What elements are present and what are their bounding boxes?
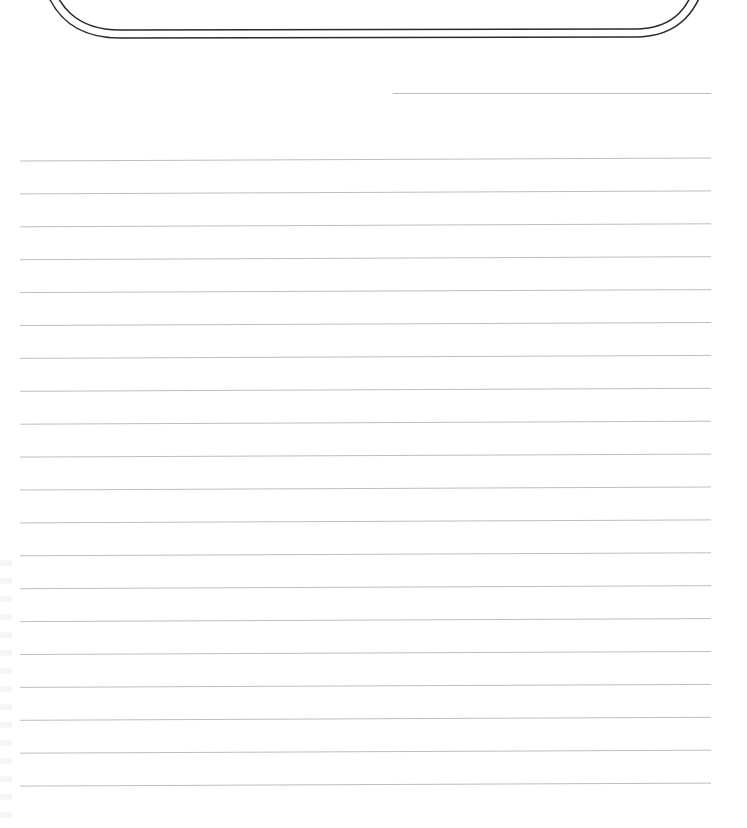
ruled-line — [20, 224, 711, 227]
ruled-line — [20, 355, 711, 358]
ruled-line — [20, 553, 711, 556]
ruled-line — [20, 750, 711, 753]
ruled-line — [20, 520, 711, 523]
ruled-line — [20, 257, 711, 260]
ruled-line — [20, 191, 711, 194]
ruled-line — [20, 586, 711, 589]
ruled-line — [20, 652, 711, 655]
lined-paper-page — [0, 0, 747, 828]
ruled-line — [20, 717, 711, 720]
ruled-line — [20, 388, 711, 391]
ruled-line — [20, 421, 711, 424]
ruled-line — [20, 290, 711, 293]
ruled-line — [20, 783, 711, 786]
ruled-lines — [0, 0, 747, 828]
ruled-lines-graphic — [0, 0, 747, 828]
ruled-line — [20, 454, 711, 457]
ruled-line — [20, 619, 711, 622]
ruled-line — [20, 158, 711, 161]
ruled-line — [20, 487, 711, 490]
ruled-line — [20, 684, 711, 687]
ruled-line — [20, 323, 711, 326]
